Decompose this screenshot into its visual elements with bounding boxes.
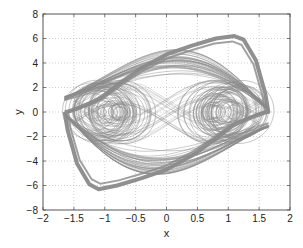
y-tick-label: −8: [27, 205, 39, 216]
y-tick-label: 0: [32, 107, 38, 118]
x-tick-label: −1: [99, 213, 111, 224]
x-tick-label: −0.5: [126, 213, 146, 224]
y-tick-label: 2: [32, 82, 38, 93]
y-tick-label: −4: [27, 156, 39, 167]
x-tick-label: −1.5: [64, 213, 84, 224]
x-tick-label: 2: [287, 213, 293, 224]
x-tick-label: −2: [37, 213, 49, 224]
y-tick-label: 4: [32, 58, 38, 69]
y-tick-label: 6: [32, 33, 38, 44]
x-tick-label: 0: [164, 213, 170, 224]
y-tick-label: −2: [27, 131, 39, 142]
attractor-phase-plot: −2−1.5−1−0.500.511.52 −8−6−4−202468 x y: [0, 0, 303, 248]
trajectory: [63, 36, 274, 189]
x-axis-label: x: [164, 227, 170, 239]
y-axis-label: y: [12, 109, 24, 115]
x-tick-label: 0.5: [190, 213, 204, 224]
x-tick-label: 1: [225, 213, 231, 224]
y-tick-label: −6: [27, 180, 39, 191]
x-tick-label: 1.5: [252, 213, 266, 224]
y-tick-label: 8: [32, 9, 38, 20]
